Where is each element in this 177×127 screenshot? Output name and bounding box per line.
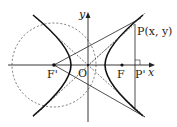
y-axis-arrow-icon <box>86 12 91 18</box>
y-axis-label: y <box>78 8 86 21</box>
focus-right-label: F <box>117 68 125 81</box>
point-p-label: P(x, y) <box>137 25 172 38</box>
segment-fprime-p <box>54 18 141 65</box>
focus-right-dot <box>120 63 123 66</box>
x-axis-label: x <box>148 66 155 79</box>
right-angle-marker <box>135 60 140 65</box>
origin-label: O <box>78 67 87 80</box>
focus-left-label: F' <box>47 68 58 81</box>
hyperbola-diagram: y x O F' F P' P(x, y) <box>0 0 177 127</box>
foot-label: P' <box>135 68 145 81</box>
focus-left-dot <box>52 63 56 67</box>
segment-o-p <box>88 24 135 65</box>
segment-fprime-lower <box>54 65 145 117</box>
origin-dot <box>87 64 89 66</box>
hyperbola-left-branch <box>33 15 71 116</box>
